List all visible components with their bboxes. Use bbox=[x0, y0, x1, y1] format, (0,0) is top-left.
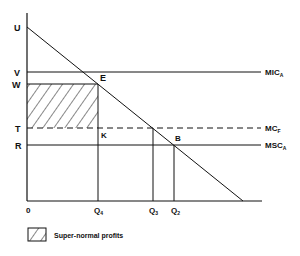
label-t: T bbox=[15, 124, 21, 134]
monopsony-diagram: U V W T R E K B 0 Q4 Q3 Q2 MICA MCF MSCA… bbox=[0, 0, 300, 256]
label-w: W bbox=[12, 80, 21, 90]
point-e: E bbox=[100, 73, 106, 83]
label-mc-f: MCF bbox=[265, 124, 281, 134]
legend-label: Super-normal profits bbox=[54, 232, 123, 240]
label-q2: Q2 bbox=[171, 206, 180, 216]
label-mic-a: MICA bbox=[265, 68, 284, 78]
label-q4: Q4 bbox=[94, 206, 103, 216]
label-origin: 0 bbox=[26, 206, 31, 215]
legend-hatch-swatch bbox=[28, 228, 46, 241]
label-r: R bbox=[15, 141, 22, 151]
point-k: K bbox=[101, 131, 107, 140]
label-v: V bbox=[14, 68, 20, 78]
label-u: U bbox=[14, 23, 21, 33]
super-normal-profits-area bbox=[27, 84, 98, 128]
label-q3: Q3 bbox=[149, 206, 158, 216]
label-msc-a: MSCA bbox=[265, 141, 287, 151]
point-b: B bbox=[175, 134, 181, 143]
